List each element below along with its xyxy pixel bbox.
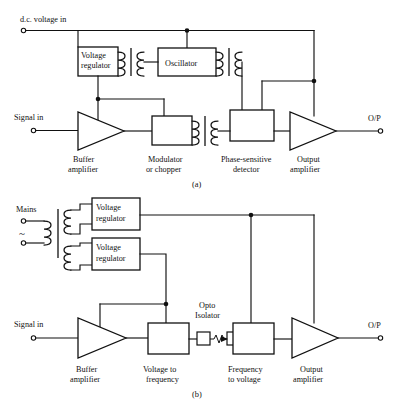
dc-voltage-in-label: d.c. voltage in: [20, 15, 66, 24]
dc-voltage-in-terminal[interactable]: [21, 28, 25, 32]
coil-regulator-primary: [118, 52, 125, 76]
diagram-a: d.c. voltage in Voltage regulator Oscill…: [14, 15, 383, 189]
label-output-amplifier-a-line1: Output: [297, 155, 320, 164]
diagram-b: Mains ~ Voltage regulator Voltage regula…: [14, 198, 383, 399]
output-amplifier-b[interactable]: [292, 318, 338, 358]
label-v2f-line1: Voltage to: [143, 365, 176, 374]
label-buffer-amplifier-a-line1: Buffer: [73, 155, 94, 164]
voltage-regulator-top-line1: Voltage: [96, 203, 121, 212]
transformer-regulator: [118, 48, 144, 76]
opto-isolator-line1: Opto: [199, 301, 215, 310]
figure-root: d.c. voltage in Voltage regulator Oscill…: [0, 0, 400, 417]
label-buffer-amplifier-b-line1: Buffer: [76, 365, 97, 374]
label-buffer-amplifier-b-line2: amplifier: [70, 375, 100, 384]
mains-terminal-top[interactable]: [21, 219, 25, 223]
block-frequency-to-voltage[interactable]: [233, 323, 274, 354]
signal-in-label-b: Signal in: [14, 320, 43, 329]
output-label-b: O/P: [368, 321, 381, 330]
label-modulator-line1: Modulator: [148, 155, 183, 164]
label-detector-line1: Phase-sensitive: [221, 155, 272, 164]
coil-modulator-primary: [192, 121, 199, 145]
output-amplifier-a[interactable]: [290, 112, 336, 150]
signal-in-terminal-b[interactable]: [31, 336, 35, 340]
label-f2v-line2: to voltage: [228, 375, 261, 384]
block-voltage-to-frequency[interactable]: [148, 323, 189, 354]
coil-oscillator-secondary-left: [137, 52, 144, 76]
output-terminal-a[interactable]: [378, 129, 382, 133]
block-modulator-chopper[interactable]: [152, 116, 192, 145]
output-terminal-b[interactable]: [378, 336, 382, 340]
wire-bottom-regulator-out: [140, 254, 166, 304]
output-label-a: O/P: [368, 114, 381, 123]
transformer-modulator: [192, 116, 218, 146]
label-detector-line2: detector: [233, 165, 260, 174]
coil-mains-primary: [44, 221, 51, 245]
ac-symbol: ~: [19, 227, 25, 239]
block-diagram-svg: d.c. voltage in Voltage regulator Oscill…: [0, 0, 400, 417]
coil-oscillator-primary-right: [216, 52, 223, 76]
voltage-regulator-line2: regulator: [81, 61, 111, 70]
voltage-regulator-top-line2: regulator: [96, 214, 126, 223]
wire-secondary-bottom-upper: [71, 243, 92, 246]
voltage-regulator-bottom-line2: regulator: [96, 254, 126, 263]
coil-detector-reference: [235, 52, 242, 76]
label-output-amplifier-b-line1: Output: [300, 365, 323, 374]
block-phase-sensitive-detector[interactable]: [230, 110, 274, 141]
label-buffer-amplifier-a-line2: amplifier: [68, 165, 98, 174]
label-v2f-line2: frequency: [146, 375, 180, 384]
voltage-regulator-bottom-line1: Voltage: [96, 243, 121, 252]
coil-detector-signal: [211, 121, 218, 145]
label-output-amplifier-b-line2: amplifier: [293, 375, 323, 384]
coil-mains-secondary-bottom: [64, 246, 71, 270]
caption-a: (a): [192, 180, 202, 189]
buffer-amplifier-a[interactable]: [78, 112, 124, 150]
mains-terminal-bottom[interactable]: [21, 241, 25, 245]
buffer-amplifier-b[interactable]: [78, 318, 126, 358]
caption-b: (b): [192, 390, 202, 399]
signal-in-label-a: Signal in: [14, 113, 43, 122]
opto-isolator-line2: Isolator: [195, 311, 220, 320]
label-modulator-line2: or chopper: [146, 165, 182, 174]
oscillator-label: Oscillator: [165, 59, 198, 68]
label-f2v-line1: Frequency: [228, 365, 263, 374]
wire-secondary-top-upper: [71, 204, 92, 210]
transformer-oscillator-output: [216, 48, 242, 110]
wire-secondary-top-lower: [71, 224, 92, 234]
coil-mains-secondary-top: [64, 210, 71, 234]
signal-in-terminal-a[interactable]: [31, 128, 35, 132]
opto-emitter-box[interactable]: [197, 332, 210, 345]
wire-secondary-bottom-lower: [71, 265, 92, 270]
mains-label: Mains: [16, 205, 36, 214]
label-output-amplifier-a-line2: amplifier: [290, 165, 320, 174]
voltage-regulator-line1: Voltage: [81, 51, 106, 60]
